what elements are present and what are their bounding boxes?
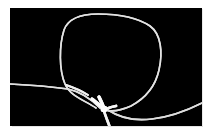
string-illustration: [0, 0, 209, 137]
junction-node: [101, 106, 108, 112]
string-right-tail-path: [108, 103, 202, 120]
figure-canvas: A thin light-colored string forms a larg…: [0, 0, 209, 137]
string-left-tail-path: [10, 84, 100, 108]
string-bottom-tail-path: [104, 111, 113, 137]
string-loop-path: [60, 14, 161, 111]
